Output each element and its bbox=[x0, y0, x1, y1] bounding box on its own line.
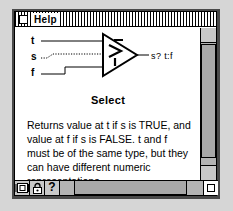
simple-diagram-toggle-button[interactable] bbox=[15, 181, 30, 195]
title-bar[interactable]: Help bbox=[15, 12, 216, 27]
input-label-f: f bbox=[31, 67, 34, 78]
input-label-t: t bbox=[31, 35, 34, 46]
desktop-background: Help bbox=[0, 0, 233, 211]
nested-squares-icon bbox=[15, 181, 30, 195]
grow-box-icon bbox=[207, 184, 215, 192]
help-content-pane: t s f s? t:f Select Returns value at t i… bbox=[15, 28, 201, 180]
vertical-scrollbar[interactable] bbox=[200, 28, 216, 180]
vertical-scroll-thumb[interactable] bbox=[201, 44, 216, 158]
close-box-icon[interactable] bbox=[19, 15, 28, 24]
help-window: Help bbox=[14, 11, 217, 196]
scroll-down-arrow-icon[interactable] bbox=[201, 165, 216, 180]
horizontal-scroll-thumb[interactable] bbox=[74, 181, 187, 195]
scroll-up-arrow-icon[interactable] bbox=[201, 28, 216, 43]
wire-graphics bbox=[15, 28, 201, 88]
connector-diagram: t s f s? t:f bbox=[15, 28, 201, 88]
input-label-s: s bbox=[31, 51, 37, 62]
lock-help-button[interactable] bbox=[30, 181, 45, 195]
question-mark-icon: ? bbox=[45, 181, 59, 194]
window-title: Help bbox=[31, 13, 60, 26]
content-wrapper: t s f s? t:f Select Returns value at t i… bbox=[15, 28, 216, 195]
output-label: s? t:f bbox=[151, 51, 173, 61]
function-name-heading: Select bbox=[15, 94, 201, 106]
bottom-bar[interactable]: ? bbox=[15, 180, 218, 195]
lock-icon bbox=[30, 181, 45, 195]
online-help-button[interactable]: ? bbox=[45, 181, 60, 195]
function-description: Returns value at t if s is TRUE, and val… bbox=[27, 118, 192, 180]
resize-grow-box[interactable] bbox=[203, 181, 218, 195]
